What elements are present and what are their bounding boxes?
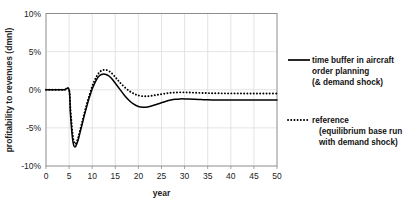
- legend-label-2: reference: [312, 116, 349, 125]
- y-axis-title: profitability to revenues (dmnl): [4, 27, 14, 152]
- y-tick-label: -10%: [21, 161, 41, 171]
- x-tick-label: 0: [44, 171, 49, 181]
- x-tick-label: 5: [67, 171, 72, 181]
- x-axis-title: year: [153, 188, 171, 198]
- y-axis-tick-labels: 10%5%0%-5%-10%: [21, 9, 41, 172]
- legend-label-2: with demand shock): [318, 138, 398, 147]
- profitability-line-chart: 10%5%0%-5%-10% 05101520253035404550 year…: [0, 0, 410, 205]
- x-tick-label: 45: [249, 171, 259, 181]
- x-axis-tick-labels: 05101520253035404550: [44, 166, 282, 181]
- x-tick-label: 50: [272, 171, 282, 181]
- x-tick-label: 15: [111, 171, 121, 181]
- chart-legend: time buffer in aircraftorder planning(& …: [288, 56, 402, 147]
- x-tick-label: 35: [203, 171, 213, 181]
- y-tick-label: 10%: [24, 9, 41, 19]
- x-tick-label: 25: [157, 171, 167, 181]
- chart-figure: 10%5%0%-5%-10% 05101520253035404550 year…: [0, 0, 410, 205]
- legend-label-1: order planning: [312, 67, 369, 76]
- y-tick-label: 5%: [29, 47, 42, 57]
- x-tick-label: 30: [180, 171, 190, 181]
- y-tick-label: 0%: [29, 85, 42, 95]
- y-tick-label: -5%: [26, 123, 42, 133]
- legend-label-1: (& demand shock): [312, 78, 383, 87]
- x-tick-label: 40: [226, 171, 236, 181]
- x-tick-label: 10: [87, 171, 97, 181]
- legend-label-1: time buffer in aircraft: [312, 56, 394, 65]
- gridlines: [46, 14, 277, 167]
- legend-label-2: (equilibrium base run: [319, 127, 402, 136]
- x-tick-label: 20: [134, 171, 144, 181]
